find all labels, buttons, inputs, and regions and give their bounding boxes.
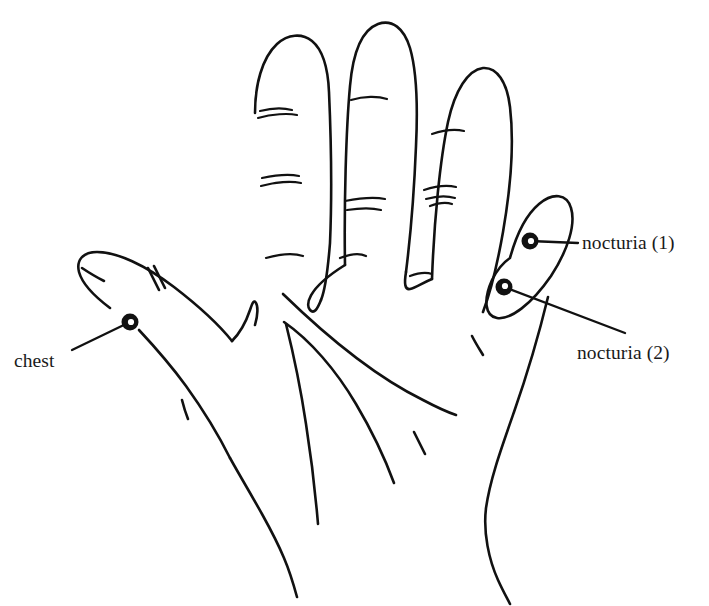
annotation-label-nocturia-2: nocturia (2) [577,342,670,364]
thumb-web [232,301,257,341]
middle-crease-upper [351,97,387,100]
leader-line-chest [72,322,130,350]
ring-crease-mid-b [426,197,455,199]
index-crease-upper-a [260,109,292,111]
palm-head-line [284,322,394,483]
thumb-outline [78,252,232,341]
marker-nocturia-2 [496,279,513,296]
ring-crease-mid-c [430,203,452,206]
thumb-tick [182,400,188,419]
index-crease-base [266,254,303,258]
index-finger-outline [255,36,331,300]
outer-right-edge [485,297,548,604]
hand-outline-group [78,23,572,604]
index-crease-lower-b [261,182,301,186]
middle-crease-mid-a [345,198,385,201]
middle-finger-outline [345,23,417,272]
leader-line-group [72,241,625,350]
palm-tick-upper [472,336,483,355]
palm-heart-line [283,294,456,415]
index-crease-lower-a [262,175,299,178]
annotation-label-nocturia-1: nocturia (1) [582,232,675,254]
ring-crease-base [410,273,432,276]
annotation-label-chest: chest [14,350,55,372]
palm-life-line [286,324,318,524]
marker-chest [122,314,139,331]
hand-drawing [0,0,709,606]
marker-nocturia-1 [522,233,539,250]
index-crease-upper-b [258,114,297,118]
thumb-tip-detail [82,268,104,281]
ring-crease-upper [432,130,464,134]
middle-crease-mid-b [347,209,381,211]
thumb-lower-edge [139,330,230,458]
leader-line-nocturia-2 [504,287,625,333]
ring-finger-outline [432,68,512,312]
ring-crease-mid-a [424,186,456,190]
hand-annotation-figure: chest nocturia (1) nocturia (2) [0,0,709,606]
wrist-left-edge [230,458,297,597]
palm-tick-mid [414,432,425,454]
